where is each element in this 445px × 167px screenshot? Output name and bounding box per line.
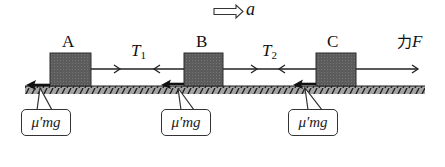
friction-callout-c: μ′mg: [288, 109, 338, 136]
applied-force-label: 力F: [397, 33, 422, 50]
tension-t1-subscript: 1: [140, 49, 146, 61]
applied-force-symbol: F: [412, 32, 422, 51]
tension-t2-label: T2: [262, 42, 277, 61]
tension-t2-subscript: 2: [271, 49, 277, 61]
acceleration-label: a: [246, 0, 255, 18]
block-b: [184, 53, 223, 86]
ground-surface: [25, 86, 425, 94]
tension-t1-label: T1: [131, 42, 146, 61]
friction-callout-a: μ′mg: [21, 109, 71, 136]
diagram-graphics: [0, 0, 445, 167]
block-a: [50, 53, 91, 86]
block-c-label: C: [327, 33, 338, 50]
block-c: [316, 53, 356, 86]
physics-diagram: a A B C T1 T2 力F μ′mg μ′mg μ′mg: [0, 0, 445, 167]
block-b-label: B: [196, 33, 207, 50]
acceleration-arrow-icon: [214, 5, 243, 18]
block-a-label: A: [62, 33, 74, 50]
friction-callout-b: μ′mg: [161, 109, 211, 136]
applied-force-prefix: 力: [397, 33, 412, 51]
